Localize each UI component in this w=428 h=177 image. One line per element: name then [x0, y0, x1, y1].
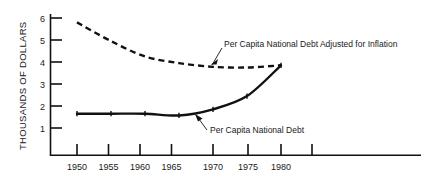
y-tick-label-2: 2	[40, 102, 45, 112]
y-axis-tick-labels: 6 5 4 3 2 1	[40, 14, 45, 134]
y-axis-title: THOUSANDS OF DOLLARS	[17, 22, 28, 150]
annotation-inflation-label: Per Capita National Debt Adjusted for In…	[224, 39, 398, 49]
x-tick-label-1970: 1970	[203, 162, 223, 172]
series-markers-national-debt	[77, 63, 281, 118]
annotation-debt-arrowhead	[195, 114, 203, 122]
x-tick-label-1960: 1960	[130, 162, 150, 172]
line-chart: THOUSANDS OF DOLLARS 6 5 4 3 2 1	[0, 0, 428, 177]
x-tick-label-1950: 1950	[67, 162, 87, 172]
y-tick-label-4: 4	[40, 58, 45, 68]
annotation-inflation-arrowhead	[211, 59, 218, 65]
y-tick-label-5: 5	[40, 36, 45, 46]
y-tick-label-3: 3	[40, 80, 45, 90]
annotation-inflation: Per Capita National Debt Adjusted for In…	[211, 39, 398, 65]
annotation-debt-label: Per Capita National Debt	[210, 125, 305, 135]
x-tick-label-1980: 1980	[271, 162, 291, 172]
chart-container: THOUSANDS OF DOLLARS 6 5 4 3 2 1	[0, 0, 428, 177]
x-axis-ticks	[77, 144, 312, 155]
y-tick-label-1: 1	[40, 124, 45, 134]
x-tick-label-1965: 1965	[161, 162, 181, 172]
annotation-debt: Per Capita National Debt	[195, 114, 305, 135]
y-tick-label-6: 6	[40, 14, 45, 24]
y-axis-ticks	[51, 18, 63, 128]
x-tick-label-1975: 1975	[238, 162, 258, 172]
x-tick-label-1955: 1955	[98, 162, 118, 172]
series-line-national-debt	[77, 65, 281, 115]
x-axis-tick-labels: 1950 1955 1960 1965 1970 1975 1980	[67, 162, 291, 172]
